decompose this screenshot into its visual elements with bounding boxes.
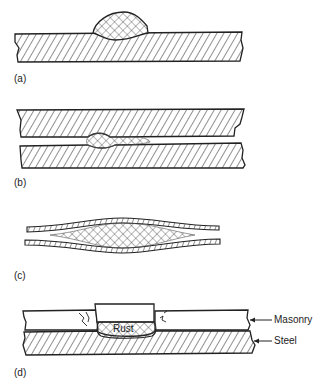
panel-label-d: (d): [14, 367, 26, 378]
panel-label-a: (a): [14, 73, 26, 84]
masonry-label: Masonry: [274, 314, 312, 325]
panel-label-b: (b): [14, 177, 26, 188]
upper-steel-plate: [17, 109, 244, 137]
panel-c: [25, 218, 220, 253]
rust-label: Rust: [113, 323, 134, 334]
panel-a: [15, 12, 243, 62]
panel-b: [17, 109, 245, 168]
lower-steel-plate: [20, 143, 245, 168]
rust-blob-fill: [93, 12, 148, 40]
masonry-right: [155, 310, 250, 330]
steel-label: Steel: [274, 335, 297, 346]
panel-d: [23, 304, 272, 355]
steel-arrowhead: [254, 339, 259, 344]
masonry-arrowhead: [250, 318, 255, 323]
corrosion-diagram: [0, 0, 320, 384]
masonry-lifted: [95, 304, 154, 322]
panel-label-c: (c): [14, 270, 26, 281]
